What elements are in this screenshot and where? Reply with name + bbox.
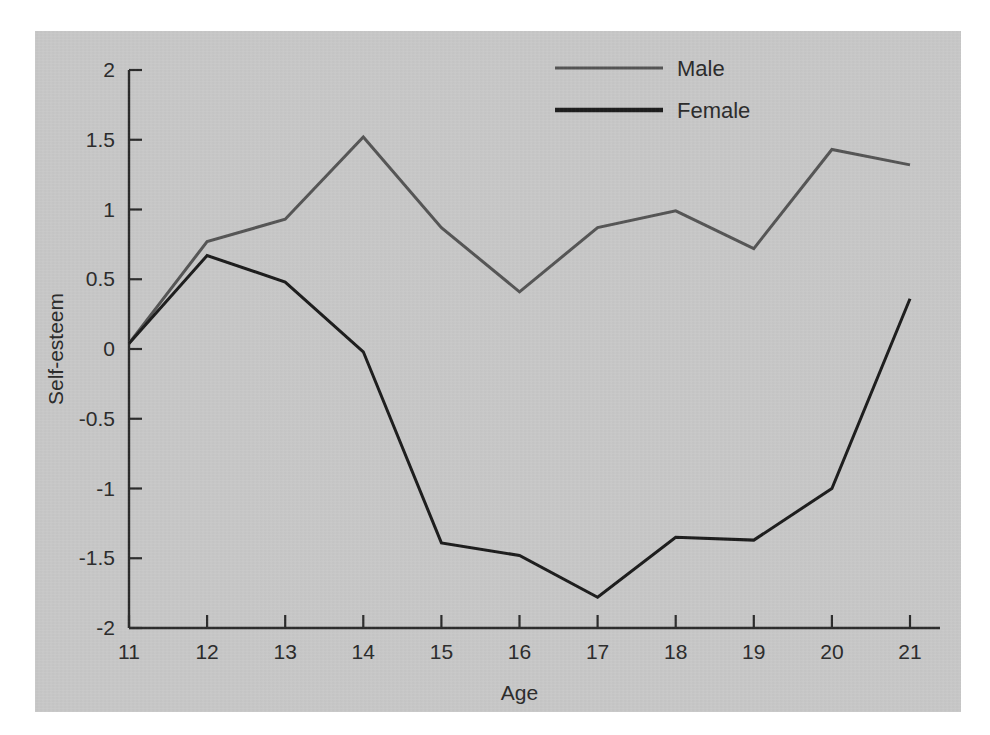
- x-tick-label: 15: [430, 640, 453, 663]
- x-tick-label: 21: [898, 640, 921, 663]
- y-tick-label: 1: [103, 198, 115, 221]
- y-tick-label: 0.5: [86, 267, 115, 290]
- series-layer: [129, 137, 910, 597]
- x-axis-title: Age: [501, 681, 538, 704]
- y-tick-label: -2: [96, 616, 115, 639]
- legend-layer: MaleFemale: [555, 56, 750, 123]
- x-tick-label: 13: [274, 640, 297, 663]
- y-tick-label: 0: [103, 337, 115, 360]
- figure-page: 21.510.50-0.5-1-1.5-21112131415161718192…: [0, 0, 990, 735]
- x-tick-label: 12: [195, 640, 218, 663]
- y-tick-label: -1.5: [79, 546, 115, 569]
- x-tick-label: 14: [352, 640, 376, 663]
- series-line-female: [129, 256, 910, 598]
- y-axis-title: Self-esteem: [44, 293, 67, 405]
- y-tick-label: -1: [96, 477, 115, 500]
- x-tick-label: 19: [742, 640, 765, 663]
- legend-label-female: Female: [677, 98, 750, 123]
- y-tick-label: 1.5: [86, 128, 115, 151]
- x-tick-label: 18: [664, 640, 687, 663]
- y-tick-label: 2: [103, 58, 115, 81]
- series-line-male: [129, 137, 910, 343]
- x-tick-label: 16: [508, 640, 531, 663]
- x-tick-label: 11: [118, 640, 140, 663]
- legend-label-male: Male: [677, 56, 725, 81]
- x-tick-label: 20: [820, 640, 843, 663]
- axis-layer: [129, 70, 940, 628]
- chart-panel: 21.510.50-0.5-1-1.5-21112131415161718192…: [35, 31, 961, 712]
- line-chart: 21.510.50-0.5-1-1.5-21112131415161718192…: [35, 31, 961, 712]
- tick-layer: [129, 70, 910, 628]
- y-tick-label: -0.5: [79, 407, 115, 430]
- x-tick-label: 17: [586, 640, 609, 663]
- tick-label-layer: 21.510.50-0.5-1-1.5-21112131415161718192…: [79, 58, 922, 663]
